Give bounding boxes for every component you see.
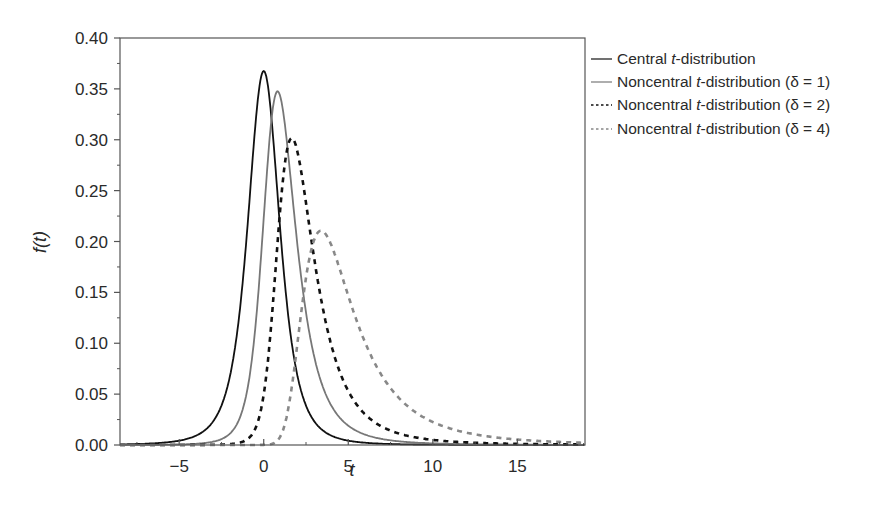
plot-curves <box>120 71 584 445</box>
legend-item-label: Noncentral t-distribution (δ = 2) <box>617 96 830 113</box>
y-axis-title: f(t) <box>30 231 50 253</box>
x-tick-label: 10 <box>423 457 442 476</box>
y-tick-label: 0.15 <box>75 283 108 302</box>
legend-item-label: Noncentral t-distribution (δ = 4) <box>617 120 830 137</box>
y-tick-label: 0.10 <box>75 334 108 353</box>
y-tick-label: 0.05 <box>75 385 108 404</box>
x-axis-title: t <box>349 460 355 480</box>
y-tick-label: 0.00 <box>75 436 108 455</box>
y-tick-label: 0.30 <box>75 131 108 150</box>
y-tick-label: 0.35 <box>75 80 108 99</box>
x-tick-label: 15 <box>508 457 527 476</box>
x-tick-label: −5 <box>169 457 188 476</box>
curve-series-1 <box>120 71 584 445</box>
legend-item-label: Noncentral t-distribution (δ = 1) <box>617 73 830 90</box>
y-tick-label: 0.40 <box>75 29 108 48</box>
legend-item-label: Central t-distribution <box>617 50 756 67</box>
curve-series-3 <box>120 138 584 445</box>
plot-frame <box>120 38 585 445</box>
curve-series-2 <box>120 91 584 445</box>
y-tick-label: 0.25 <box>75 182 108 201</box>
curve-series-4 <box>120 231 584 445</box>
y-tick-label: 0.20 <box>75 233 108 252</box>
x-tick-label: 0 <box>259 457 268 476</box>
y-axis: 0.000.050.100.150.200.250.300.350.40 <box>75 29 120 455</box>
legend: Central t-distributionNoncentral t-distr… <box>591 50 830 137</box>
chart: 0.000.050.100.150.200.250.300.350.40 −50… <box>0 0 888 524</box>
